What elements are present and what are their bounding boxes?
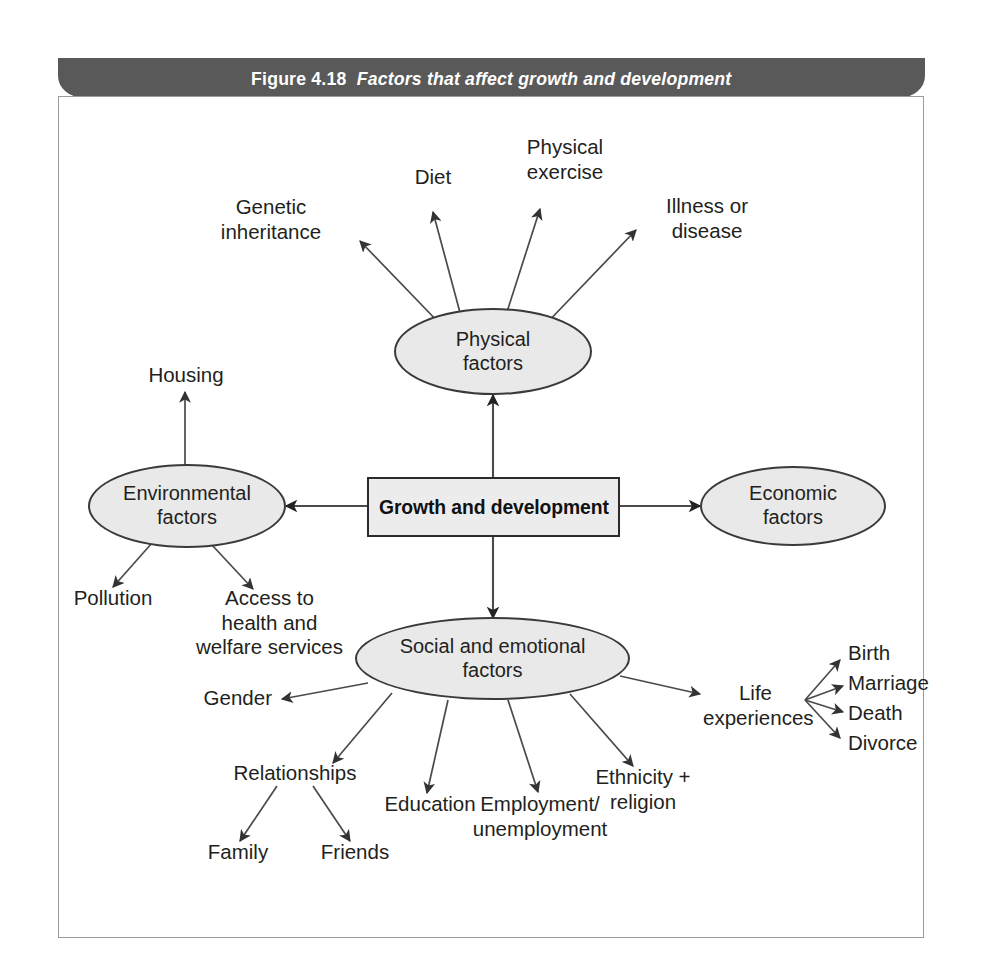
node-economic-factors[interactable]: Economic factors: [700, 466, 886, 546]
node-environmental-factors[interactable]: Environmental factors: [88, 464, 286, 548]
node-physical-factors-line1: Physical: [456, 328, 530, 352]
label-life-experiences-line2: experiences: [703, 706, 808, 731]
label-access-line2: health and: [182, 611, 357, 636]
node-economic-factors-line1: Economic: [749, 482, 837, 506]
node-social-and-emotional-factors-line1: Social and emotional: [400, 635, 586, 659]
label-employment-line2: unemployment: [455, 817, 625, 842]
figure-number: Figure 4.18: [251, 69, 346, 88]
label-diet: Diet: [378, 165, 488, 190]
label-life-experiences-line1: Life: [703, 681, 808, 706]
label-access-line3: welfare services: [182, 635, 357, 660]
node-physical-factors-line2: factors: [456, 352, 530, 376]
label-illness-or-disease: Illness or disease: [632, 194, 782, 243]
label-divorce: Divorce: [848, 731, 918, 756]
label-physical-exercise-line2: exercise: [495, 160, 635, 185]
node-growth-and-development[interactable]: Growth and development: [367, 477, 620, 537]
node-social-and-emotional-factors[interactable]: Social and emotional factors: [355, 617, 630, 700]
label-illness-or-disease-line1: Illness or: [632, 194, 782, 219]
label-friends: Friends: [295, 840, 415, 865]
label-housing: Housing: [116, 363, 256, 388]
figure-title: Factors that affect growth and developme…: [357, 69, 732, 88]
label-access-line1: Access to: [182, 586, 357, 611]
label-ethnicity-line1: Ethnicity +: [563, 765, 723, 790]
label-marriage: Marriage: [848, 671, 929, 696]
label-physical-exercise-line1: Physical: [495, 135, 635, 160]
label-genetic-inheritance-line1: Genetic: [186, 195, 356, 220]
label-life-experiences: Life experiences: [703, 681, 808, 730]
label-access-to-health-and-welfare-services: Access to health and welfare services: [182, 586, 357, 660]
node-physical-factors[interactable]: Physical factors: [394, 308, 592, 395]
label-genetic-inheritance-line2: inheritance: [186, 220, 356, 245]
label-death: Death: [848, 701, 903, 726]
node-environmental-factors-line2: factors: [123, 506, 251, 530]
label-pollution: Pollution: [48, 586, 178, 611]
label-relationships: Relationships: [219, 761, 371, 786]
label-genetic-inheritance: Genetic inheritance: [186, 195, 356, 244]
label-ethnicity-line2: religion: [563, 790, 723, 815]
label-physical-exercise: Physical exercise: [495, 135, 635, 184]
node-economic-factors-line2: factors: [749, 506, 837, 530]
figure-caption-banner: Figure 4.18 Factors that affect growth a…: [58, 58, 925, 98]
node-environmental-factors-line1: Environmental: [123, 482, 251, 506]
label-family: Family: [178, 840, 298, 865]
figure-page: Figure 4.18 Factors that affect growth a…: [0, 0, 983, 975]
node-growth-and-development-label: Growth and development: [379, 495, 609, 519]
label-gender: Gender: [152, 686, 272, 711]
label-ethnicity-religion: Ethnicity + religion: [563, 765, 723, 814]
label-birth: Birth: [848, 641, 890, 666]
label-illness-or-disease-line2: disease: [632, 219, 782, 244]
node-social-and-emotional-factors-line2: factors: [400, 659, 586, 683]
